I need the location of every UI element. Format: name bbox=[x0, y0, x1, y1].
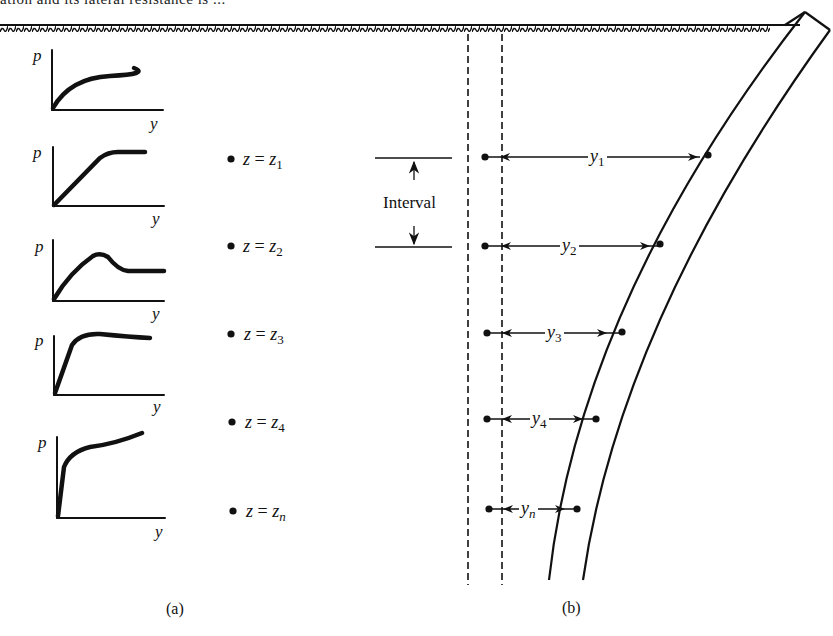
depth-label-zn: z = zn bbox=[246, 502, 286, 523]
py-curve-3 bbox=[53, 240, 164, 301]
caption-a: (a) bbox=[166, 601, 184, 617]
depth-label-z3: z = z3 bbox=[244, 325, 284, 346]
py-curves bbox=[52, 50, 165, 518]
deflected-pile bbox=[549, 12, 830, 580]
py-curve-5 bbox=[57, 433, 165, 518]
deflection-label-y4: y4 bbox=[530, 409, 549, 430]
ground-surface bbox=[0, 25, 800, 34]
depth-label-z1: z = z1 bbox=[243, 150, 283, 171]
y-axis-label-1: y bbox=[150, 115, 158, 132]
diagram-canvas bbox=[0, 0, 833, 636]
y-axis-label-4: y bbox=[153, 398, 161, 415]
py-curve-2 bbox=[53, 147, 164, 206]
depth-label-z4: z = z4 bbox=[245, 413, 285, 434]
py-curve-4 bbox=[54, 334, 164, 395]
caption-b: (b) bbox=[562, 600, 581, 616]
deflection-arrows bbox=[481, 151, 711, 513]
depth-label-z2: z = z2 bbox=[243, 237, 283, 258]
p-axis-label-2: p bbox=[33, 144, 42, 161]
deflection-label-yn: yn bbox=[519, 499, 538, 520]
y-axis-label-5: y bbox=[155, 523, 163, 540]
original-pile-axis bbox=[468, 34, 502, 585]
deflection-label-y1: y1 bbox=[588, 147, 607, 168]
y-axis-label-3: y bbox=[152, 305, 160, 322]
deflection-label-y3: y3 bbox=[545, 323, 564, 344]
py-curve-1 bbox=[52, 50, 163, 110]
p-axis-label-3: p bbox=[35, 238, 44, 255]
p-axis-label-1: p bbox=[33, 47, 42, 64]
interval-label: Interval bbox=[383, 193, 436, 212]
y-axis-label-2: y bbox=[152, 210, 160, 227]
deflection-label-y2: y2 bbox=[560, 236, 579, 257]
p-axis-label-4: p bbox=[35, 332, 44, 349]
p-axis-label-5: p bbox=[38, 434, 47, 451]
depth-dots bbox=[227, 155, 236, 514]
